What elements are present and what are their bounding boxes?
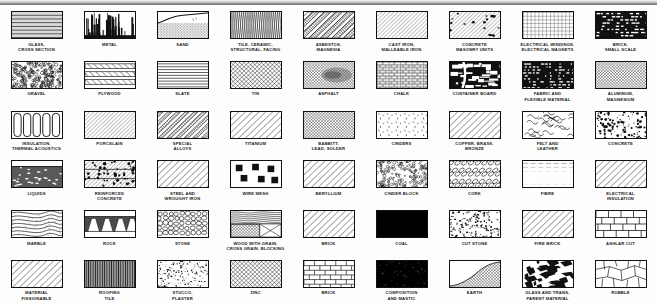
plywood-swatch bbox=[84, 61, 136, 89]
material-cell[interactable]: FIBRE bbox=[511, 155, 584, 205]
special-alloys-swatch bbox=[157, 111, 209, 139]
reinforced-concrete-swatch bbox=[84, 160, 136, 188]
material-cell[interactable]: BRICK bbox=[292, 205, 365, 255]
stone-swatch bbox=[157, 210, 209, 238]
material-label: TILE, CERAMIC, STRUCTURAL, FACING bbox=[220, 42, 292, 52]
material-label: REINFORCED CONCRETE bbox=[74, 191, 146, 201]
material-label: ALUMINUM, MAGNESIUM bbox=[585, 91, 657, 101]
material-cell[interactable]: FELT AND LEATHER bbox=[511, 106, 584, 156]
material-symbols-grid: GLASS, CROSS SECTIONMETALSANDTILE, CERAM… bbox=[0, 6, 657, 305]
composition-mastic-swatch bbox=[376, 260, 428, 288]
container-board-swatch bbox=[449, 61, 501, 89]
material-label: GLASS AND TRANS- PARENT MATERIAL bbox=[512, 290, 584, 300]
material-label: CORK bbox=[439, 191, 511, 196]
material-label: MATERIAL FISSIONABLE bbox=[1, 290, 73, 300]
material-label: FIRE BRICK bbox=[512, 241, 584, 246]
material-cell[interactable]: SPECIAL ALLOYS bbox=[146, 106, 219, 156]
material-label: TITANIUM bbox=[220, 141, 292, 146]
material-cell[interactable]: CONTAINER BOARD bbox=[438, 56, 511, 106]
material-label: LIQUIDS bbox=[1, 191, 73, 196]
titanium-swatch bbox=[230, 111, 282, 139]
material-cell[interactable]: GLASS, CROSS SECTION bbox=[0, 6, 73, 56]
material-cell[interactable]: TITANIUM bbox=[219, 106, 292, 156]
material-cell[interactable]: TIN bbox=[219, 56, 292, 106]
material-cell[interactable]: INSULATION, THERMAL ACOUSTICS bbox=[0, 106, 73, 156]
material-cell[interactable]: RUBBLE bbox=[584, 255, 657, 305]
material-label: COMPOSITION AND MASTIC bbox=[366, 290, 438, 300]
material-cell[interactable]: GLASS AND TRANS- PARENT MATERIAL bbox=[511, 255, 584, 305]
material-label: PLYWOOD bbox=[74, 91, 146, 96]
material-cell[interactable]: MARBLE bbox=[0, 205, 73, 255]
material-cell[interactable]: REINFORCED CONCRETE bbox=[73, 155, 146, 205]
material-cell[interactable]: BRICK bbox=[292, 255, 365, 305]
material-cell[interactable]: ASPHALT bbox=[292, 56, 365, 106]
material-label: COAL bbox=[366, 241, 438, 246]
glass-transparent-swatch bbox=[522, 260, 574, 288]
material-label: FELT AND LEATHER bbox=[512, 141, 584, 151]
material-cell[interactable]: MATERIAL FISSIONABLE bbox=[0, 255, 73, 305]
material-label: EARTH bbox=[439, 290, 511, 295]
material-cell[interactable]: STONE bbox=[146, 205, 219, 255]
material-cell[interactable]: WIRE MESH bbox=[219, 155, 292, 205]
material-label: CONCRETE bbox=[585, 141, 657, 146]
material-cell[interactable]: CUT STONE bbox=[438, 205, 511, 255]
rubble-swatch bbox=[595, 260, 647, 288]
material-cell[interactable]: GRAVEL bbox=[0, 56, 73, 106]
material-cell[interactable]: ASHLAR CUT bbox=[584, 205, 657, 255]
material-cell[interactable]: BERYLLIUM bbox=[292, 155, 365, 205]
material-cell[interactable]: ROOFING TILE bbox=[73, 255, 146, 305]
material-cell[interactable]: BABBITT, LEAD, SOLDER bbox=[292, 106, 365, 156]
material-cell[interactable]: CINDERS bbox=[365, 106, 438, 156]
material-cell[interactable]: CAST IRON, MALLEABLE IRON bbox=[365, 6, 438, 56]
wire-mesh-swatch bbox=[230, 160, 282, 188]
material-cell[interactable]: STEEL AND WROUGHT IRON bbox=[146, 155, 219, 205]
material-cell[interactable]: COMPOSITION AND MASTIC bbox=[365, 255, 438, 305]
material-cell[interactable]: CONCRETE MASONRY UNITS bbox=[438, 6, 511, 56]
material-cell[interactable]: ROCK bbox=[73, 205, 146, 255]
material-cell[interactable]: ALUMINUM, MAGNESIUM bbox=[584, 56, 657, 106]
zinc-swatch bbox=[230, 260, 282, 288]
material-label: METAL bbox=[74, 42, 146, 47]
material-label: ROOFING TILE bbox=[74, 290, 146, 300]
material-cell[interactable]: FIRE BRICK bbox=[511, 205, 584, 255]
material-cell[interactable]: SAND bbox=[146, 6, 219, 56]
fire-brick-swatch bbox=[522, 210, 574, 238]
top-edge-band bbox=[0, 0, 657, 5]
material-cell[interactable]: TILE, CERAMIC, STRUCTURAL, FACING bbox=[219, 6, 292, 56]
material-label: WIRE MESH bbox=[220, 191, 292, 196]
material-cell[interactable]: WOOD WITH GRAIN, CROSS GRAIN, BLOCKING bbox=[219, 205, 292, 255]
material-cell[interactable]: STUCCO, PLASTER bbox=[146, 255, 219, 305]
material-cell[interactable]: LIQUIDS bbox=[0, 155, 73, 205]
material-cell[interactable]: PLYWOOD bbox=[73, 56, 146, 106]
material-cell[interactable]: ASBESTOS, MAGNESIA bbox=[292, 6, 365, 56]
cinder-block-swatch bbox=[376, 160, 428, 188]
liquids-swatch bbox=[11, 160, 63, 188]
material-cell[interactable]: SLATE bbox=[146, 56, 219, 106]
material-cell[interactable]: BRICK, SMALL SCALE bbox=[584, 6, 657, 56]
cork-swatch bbox=[449, 160, 501, 188]
electrical-insulation-swatch bbox=[595, 160, 647, 188]
material-label: ASHLAR CUT bbox=[585, 241, 657, 246]
material-cell[interactable]: ELECTRICAL INSULATION bbox=[584, 155, 657, 205]
material-cell[interactable]: CINDER BLOCK bbox=[365, 155, 438, 205]
material-cell[interactable]: ELECTRICAL WINDINGS, ELECTRICAL MAGNETS bbox=[511, 6, 584, 56]
material-cell[interactable]: CONCRETE bbox=[584, 106, 657, 156]
material-cell[interactable]: ZINC bbox=[219, 255, 292, 305]
material-cell[interactable]: EARTH bbox=[438, 255, 511, 305]
metal-swatch bbox=[84, 11, 136, 39]
material-label: STEEL AND WROUGHT IRON bbox=[147, 191, 219, 201]
material-label: CONTAINER BOARD bbox=[439, 91, 511, 96]
material-cell[interactable]: COAL bbox=[365, 205, 438, 255]
material-label: CONCRETE MASONRY UNITS bbox=[439, 42, 511, 52]
material-cell[interactable]: FABRIC AND FLEXIBLE MATERIAL bbox=[511, 56, 584, 106]
copper-brass-bronze-swatch bbox=[449, 111, 501, 139]
material-cell[interactable]: CORK bbox=[438, 155, 511, 205]
material-cell[interactable]: METAL bbox=[73, 6, 146, 56]
material-cell[interactable]: COPPER, BRASS, BRONZE bbox=[438, 106, 511, 156]
material-label: ELECTRICAL WINDINGS, ELECTRICAL MAGNETS bbox=[512, 42, 584, 52]
material-label: TIN bbox=[220, 91, 292, 96]
material-cell[interactable]: PORCELAIN bbox=[73, 106, 146, 156]
brick-diagonal-swatch bbox=[303, 210, 355, 238]
material-cell[interactable]: CHALK bbox=[365, 56, 438, 106]
material-label: GRAVEL bbox=[1, 91, 73, 96]
